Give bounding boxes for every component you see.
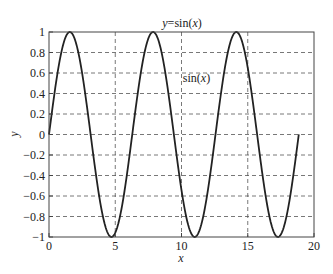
curve-annotation: sin(x) xyxy=(183,71,210,85)
x-tick-label: 5 xyxy=(112,239,118,253)
y-tick-label: 0.8 xyxy=(30,46,45,60)
y-tick-label: 0.6 xyxy=(30,66,45,80)
y-tick-label: 1 xyxy=(39,25,45,39)
y-tick-label: −0.2 xyxy=(23,148,45,162)
y-tick-label: −0.8 xyxy=(23,210,45,224)
sine-chart: 05101520 −1−0.8−0.6−0.4−0.200.20.40.60.8… xyxy=(0,0,333,274)
x-tick-label: 0 xyxy=(46,239,52,253)
y-tick-label: −1 xyxy=(32,230,45,244)
x-axis-label: x xyxy=(177,251,184,265)
y-tick-label: 0.2 xyxy=(30,107,45,121)
chart-title: y=sin(x) xyxy=(161,16,201,30)
grid-lines xyxy=(49,32,314,237)
y-tick-label: 0 xyxy=(39,128,45,142)
y-tick-label: −0.4 xyxy=(23,169,45,183)
x-tick-label: 20 xyxy=(308,239,320,253)
y-axis-label: y xyxy=(7,131,21,138)
y-tick-label: 0.4 xyxy=(30,87,45,101)
x-tick-label: 15 xyxy=(242,239,254,253)
y-tick-label: −0.6 xyxy=(23,189,45,203)
